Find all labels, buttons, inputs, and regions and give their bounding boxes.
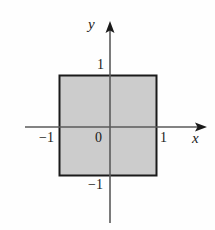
coordinate-plot	[0, 0, 215, 230]
y-axis-label: y	[88, 17, 95, 32]
x-tick-label-positive-one: 1	[160, 131, 167, 145]
origin-label: 0	[95, 131, 102, 145]
figure-canvas: y x 1 −1 −1 1 0	[0, 0, 215, 230]
y-tick-label-negative-one: −1	[88, 178, 103, 192]
y-tick-label-positive-one: 1	[97, 58, 104, 72]
x-tick-label-negative-one: −1	[39, 131, 54, 145]
x-axis-label: x	[192, 131, 199, 146]
shaded-square-region	[60, 76, 157, 176]
